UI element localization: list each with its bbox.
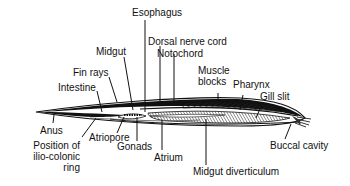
- amphioxus-diagram: Esophagus Dorsal nerve cord Notochord Mi…: [0, 0, 350, 186]
- label-gill-slit: Gill slit: [260, 91, 289, 102]
- label-buccal-cavity: Buccal cavity: [270, 140, 328, 151]
- label-muscle-blocks-line2: blocks: [198, 76, 226, 87]
- label-gonads: Gonads: [117, 141, 152, 152]
- label-midgut-diverticulum: Midgut diverticulum: [193, 166, 279, 177]
- label-fin-rays: Fin rays: [73, 67, 109, 78]
- label-ilio-colonic-line2: ilio-colonic: [20, 151, 80, 162]
- label-notochord: Notochord: [157, 48, 203, 59]
- label-dorsal-nerve-cord: Dorsal nerve cord: [148, 36, 227, 47]
- label-midgut: Midgut: [96, 46, 126, 57]
- label-esophagus: Esophagus: [132, 7, 182, 18]
- label-ilio-colonic-line3: ring: [30, 162, 80, 173]
- label-ilio-colonic-line1: Position of: [30, 140, 80, 151]
- label-pharynx: Pharynx: [233, 79, 270, 90]
- label-atrium: Atrium: [154, 152, 183, 163]
- label-anus: Anus: [40, 125, 63, 136]
- label-intestine: Intestine: [58, 82, 96, 93]
- label-muscle-blocks-line1: Muscle: [198, 65, 230, 76]
